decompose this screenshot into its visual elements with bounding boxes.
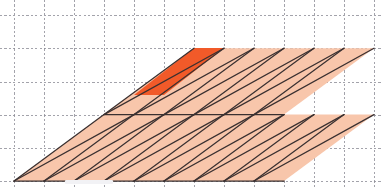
lattice-svg-canvas — [0, 0, 381, 187]
lattice-figure — [0, 0, 381, 187]
bottom-ui-sliver — [65, 180, 113, 184]
